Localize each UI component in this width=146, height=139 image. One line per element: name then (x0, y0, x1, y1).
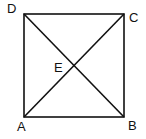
label-a: A (17, 119, 26, 134)
square-diagram: D C E A B (0, 0, 146, 139)
label-d: D (7, 1, 16, 16)
label-e: E (54, 60, 63, 75)
label-c: C (129, 10, 138, 25)
label-b: B (128, 118, 137, 133)
